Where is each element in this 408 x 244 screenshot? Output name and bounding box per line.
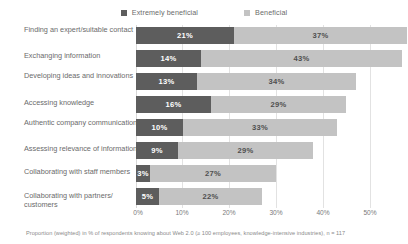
bar-value-label: 5% <box>142 192 153 201</box>
bar-row[interactable]: 10% 33% <box>136 119 337 136</box>
bar-segment-beneficial[interactable]: 43% <box>201 50 402 67</box>
bar-value-label: 9% <box>151 146 162 155</box>
bar-row[interactable]: 5% 22% <box>136 188 262 205</box>
bar-value-label: 43% <box>294 54 310 63</box>
legend-label-beneficial: Beneficial <box>255 8 287 17</box>
x-tick-label: 40% <box>316 209 329 216</box>
bar-row[interactable]: 3% 27% <box>136 165 276 182</box>
bar-row[interactable]: 9% 29% <box>136 142 313 159</box>
legend-item-extremely-beneficial[interactable]: Extremely beneficial <box>121 8 198 17</box>
x-tick-label: 0% <box>133 209 143 216</box>
bar-row[interactable]: 13% 34% <box>136 73 356 90</box>
x-tick-label: 20% <box>222 209 235 216</box>
bar-value-label: 34% <box>269 77 285 86</box>
bar-value-label: 13% <box>159 77 175 86</box>
bar-row[interactable]: 14% 43% <box>136 50 402 67</box>
bar-segment-extremely-beneficial[interactable]: 9% <box>136 142 178 159</box>
bar-segment-beneficial[interactable]: 34% <box>197 73 356 90</box>
category-label: Assessing relevance of information <box>24 145 142 154</box>
bar-row[interactable]: 16% 29% <box>136 96 346 113</box>
bar-segment-extremely-beneficial[interactable]: 3% <box>136 165 150 182</box>
category-label: Collaborating with partners/ customers <box>24 192 142 209</box>
bar-value-label: 16% <box>166 100 182 109</box>
plot-area: 21% 37% 14% 43% 13% <box>136 25 395 208</box>
category-label: Developing ideas and innovations <box>24 72 142 81</box>
x-tick-label: 50% <box>363 209 376 216</box>
bar-value-label: 29% <box>271 100 287 109</box>
bar-row[interactable]: 21% 37% <box>136 27 407 44</box>
bar-segment-beneficial[interactable]: 37% <box>234 27 407 44</box>
bar-value-label: 29% <box>238 146 254 155</box>
bar-value-label: 10% <box>152 123 168 132</box>
bar-segment-extremely-beneficial[interactable]: 5% <box>136 188 159 205</box>
bar-value-label: 33% <box>252 123 268 132</box>
bar-segment-beneficial[interactable]: 29% <box>211 96 346 113</box>
bar-segment-extremely-beneficial[interactable]: 13% <box>136 73 197 90</box>
bar-value-label: 3% <box>137 169 148 178</box>
legend-swatch-extremely-beneficial <box>121 10 127 16</box>
stacked-bar-chart: Extremely beneficial Beneficial Finding … <box>0 0 408 244</box>
bar-rows: 21% 37% 14% 43% 13% <box>136 25 395 208</box>
category-label: Finding an expert/suitable contact <box>24 26 142 35</box>
bar-segment-beneficial[interactable]: 33% <box>183 119 337 136</box>
category-label: Collaborating with staff members <box>24 168 142 177</box>
bar-segment-extremely-beneficial[interactable]: 21% <box>136 27 234 44</box>
legend-item-beneficial[interactable]: Beneficial <box>244 8 287 17</box>
bar-value-label: 21% <box>177 31 193 40</box>
bar-value-label: 27% <box>205 169 221 178</box>
category-label: Accessing knowledge <box>24 99 142 108</box>
category-label: Exchanging information <box>24 52 142 61</box>
bar-segment-beneficial[interactable]: 29% <box>178 142 313 159</box>
bar-value-label: 37% <box>313 31 329 40</box>
bar-value-label: 14% <box>161 54 177 63</box>
legend-swatch-beneficial <box>244 10 250 16</box>
bar-segment-extremely-beneficial[interactable]: 16% <box>136 96 211 113</box>
bar-segment-extremely-beneficial[interactable]: 10% <box>136 119 183 136</box>
chart-footnote: Proportion (weighted) in % of respondent… <box>26 230 396 237</box>
bar-value-label: 22% <box>203 192 219 201</box>
x-tick-label: 10% <box>175 209 188 216</box>
bar-segment-extremely-beneficial[interactable]: 14% <box>136 50 201 67</box>
category-axis: Finding an expert/suitable contact Excha… <box>0 25 130 208</box>
category-label: Authentic company communication <box>24 119 142 128</box>
chart-legend: Extremely beneficial Beneficial <box>0 8 408 17</box>
bar-segment-beneficial[interactable]: 22% <box>159 188 262 205</box>
legend-label-extremely-beneficial: Extremely beneficial <box>132 8 198 17</box>
x-tick-label: 30% <box>269 209 282 216</box>
bar-segment-beneficial[interactable]: 27% <box>150 165 276 182</box>
x-axis: 0% 10% 20% 30% 40% 50% <box>136 209 395 221</box>
